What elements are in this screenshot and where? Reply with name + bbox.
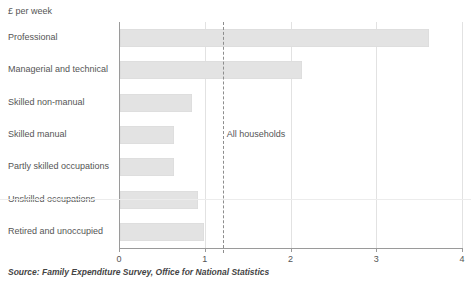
chart-plot-area: 01234All households: [119, 22, 462, 248]
x-axis-tick-label: 3: [374, 254, 379, 264]
reference-line-label: All households: [227, 129, 286, 139]
x-gridline: [205, 22, 206, 248]
x-axis-tick-label: 4: [459, 254, 464, 264]
category-axis-labels: ProfessionalManagerial and technicalSkil…: [0, 22, 111, 248]
x-gridline: [291, 22, 292, 248]
bar: [120, 94, 192, 112]
x-axis-tick: [291, 248, 292, 252]
x-axis-tick: [205, 248, 206, 252]
x-axis-tick: [462, 248, 463, 252]
bar: [120, 29, 429, 47]
category-label: Professional: [8, 32, 58, 42]
bar: [120, 61, 302, 79]
category-label: Managerial and technical: [8, 64, 108, 74]
category-label: Retired and unoccupied: [8, 226, 103, 236]
reference-line-all-households: [223, 22, 224, 253]
x-axis-tick-label: 1: [202, 254, 207, 264]
category-label: Partly skilled occupations: [8, 161, 109, 171]
x-axis-tick: [376, 248, 377, 252]
x-gridline: [462, 22, 463, 248]
x-gridline: [376, 22, 377, 248]
x-axis-tick: [119, 248, 120, 252]
x-axis-tick-label: 2: [288, 254, 293, 264]
bar: [120, 158, 174, 176]
source-note: Source: Family Expenditure Survey, Offic…: [8, 267, 269, 277]
y-axis-unit-caption: £ per week: [8, 6, 52, 16]
category-label: Skilled manual: [8, 129, 67, 139]
bar: [120, 126, 174, 144]
bar: [120, 223, 204, 241]
horizontal-rule: [0, 199, 471, 200]
x-axis-tick-label: 0: [116, 254, 121, 264]
category-label: Skilled non-manual: [8, 97, 85, 107]
